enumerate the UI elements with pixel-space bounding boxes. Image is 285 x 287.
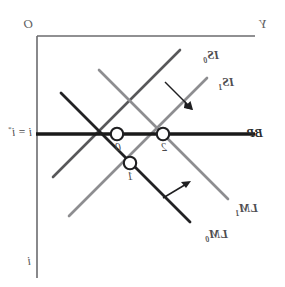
curve-label-lm0-text: LM	[209, 227, 228, 241]
curve-label-is0: IS0	[203, 49, 219, 64]
equilibrium-point-2	[157, 128, 169, 140]
figure-container: · · · · · · · · · · · · ·	[0, 0, 285, 287]
curve-is1	[69, 78, 207, 216]
y-axis-label: Y	[260, 17, 267, 30]
curve-label-bp: BP	[247, 127, 263, 140]
equilibrium-point-0	[111, 128, 123, 140]
curve-label-lm1-text: LM	[239, 201, 258, 215]
curve-label-lm1: LM1	[235, 202, 258, 217]
i-axis-label: i	[27, 254, 31, 267]
lm-shift-arrow	[163, 181, 191, 198]
curve-label-lm0-subscript: 0	[205, 235, 209, 244]
point-label-2: 2	[161, 142, 167, 154]
equilibrium-point-1	[124, 157, 136, 169]
curve-is0	[53, 50, 180, 177]
curve-label-lm1-subscript: 1	[235, 209, 239, 218]
point-label-0: 0	[115, 142, 121, 154]
curve-label-is0-text: IS	[207, 48, 219, 62]
curve-label-is1-subscript: 1	[218, 83, 222, 92]
curve-label-is0-subscript: 0	[203, 56, 207, 65]
mirrored-drawing-surface: Y O i IS0 IS1 BP i = i* LM1 LM0 0 1 2	[0, 0, 285, 287]
curve-label-lm0: LM0	[205, 228, 228, 243]
bp-equation-label: i = i*	[9, 126, 32, 138]
origin-label: O	[24, 17, 33, 30]
diagram-svg	[0, 0, 285, 287]
curve-label-is1-text: IS	[222, 75, 234, 89]
bp-equation-star: *	[9, 125, 13, 133]
point-label-1: 1	[127, 171, 133, 183]
curve-label-is1: IS1	[218, 76, 234, 91]
bp-equation-base: i = i	[12, 126, 32, 138]
